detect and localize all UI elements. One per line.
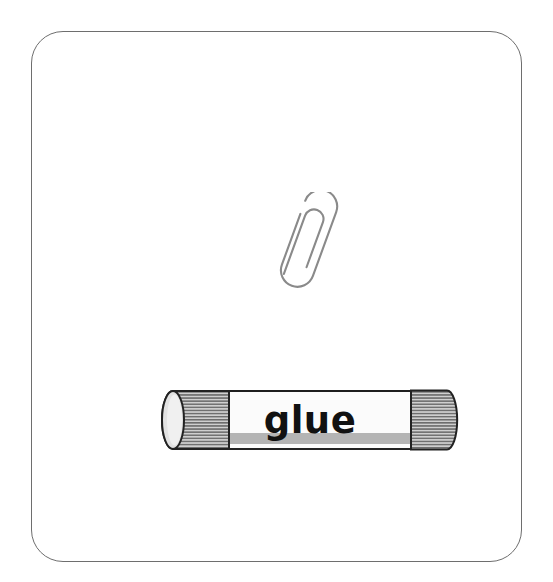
glue-stick-svg (159, 388, 461, 452)
paperclip-icon (268, 192, 346, 296)
glue-right-cap (407, 390, 459, 451)
glue-left-cap (161, 390, 231, 450)
glue-body (221, 391, 417, 449)
flashcard-panel: glue (31, 31, 522, 562)
glue-stick-illustration (159, 388, 461, 452)
paperclip-svg (268, 192, 346, 296)
glue-label-stripe (221, 433, 417, 444)
